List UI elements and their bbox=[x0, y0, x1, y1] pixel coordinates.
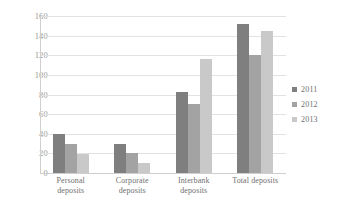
x-axis-category-label: Corporatedeposits bbox=[103, 176, 162, 196]
legend-swatch-icon bbox=[292, 87, 297, 92]
bar-2011 bbox=[53, 134, 65, 173]
category-label-line: deposits bbox=[103, 186, 162, 196]
plot-area bbox=[40, 16, 286, 173]
bar-2011 bbox=[114, 144, 126, 173]
bar-2012 bbox=[249, 55, 261, 173]
category-label-line: Interbank bbox=[164, 176, 223, 186]
x-axis-category-label: Total deposits bbox=[226, 176, 285, 196]
x-axis-category-label: Interbankdeposits bbox=[164, 176, 223, 196]
bar-groups bbox=[40, 16, 286, 173]
bar-group bbox=[228, 16, 282, 173]
legend-swatch-icon bbox=[292, 117, 297, 122]
bar-group bbox=[167, 16, 221, 173]
x-axis-category-label: Personaldeposits bbox=[41, 176, 100, 196]
category-label-line: Corporate bbox=[103, 176, 162, 186]
legend-item[interactable]: 2012 bbox=[292, 100, 318, 109]
legend-label: 2012 bbox=[301, 100, 318, 109]
legend-label: 2011 bbox=[301, 85, 318, 94]
bar-2013 bbox=[77, 154, 89, 173]
category-label-line: Personal bbox=[41, 176, 100, 186]
bar-2013 bbox=[138, 163, 150, 173]
legend-label: 2013 bbox=[301, 115, 318, 124]
bar-2013 bbox=[261, 31, 273, 173]
chart-legend: 201120122013 bbox=[292, 85, 318, 124]
legend-item[interactable]: 2011 bbox=[292, 85, 318, 94]
category-label-line: deposits bbox=[164, 186, 223, 196]
bar-group bbox=[44, 16, 98, 173]
bar-chart: 160140120100806040200 PersonaldepositsCo… bbox=[0, 0, 339, 213]
category-label-line: Total deposits bbox=[226, 176, 285, 186]
bar-2013 bbox=[200, 59, 212, 173]
category-label-line: deposits bbox=[41, 186, 100, 196]
legend-swatch-icon bbox=[292, 102, 297, 107]
bar-2012 bbox=[126, 153, 138, 173]
bar-2011 bbox=[176, 92, 188, 173]
bar-2011 bbox=[237, 24, 249, 173]
bar-group bbox=[105, 16, 159, 173]
x-axis-categories: PersonaldepositsCorporatedepositsInterba… bbox=[40, 176, 286, 196]
bar-2012 bbox=[65, 144, 77, 173]
legend-item[interactable]: 2013 bbox=[292, 115, 318, 124]
bar-2012 bbox=[188, 104, 200, 173]
gridline bbox=[40, 173, 286, 174]
